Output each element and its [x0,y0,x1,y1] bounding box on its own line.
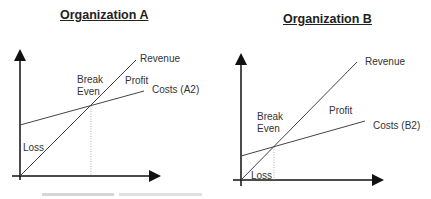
figure-caption-clipped [42,193,202,196]
break-even-diagrams: Revenue Break Even Profit Costs (A2) Los… [0,0,431,199]
costs-label: Costs (A2) [152,84,199,95]
break-even-label-2: Even [77,86,100,97]
profit-label: Profit [329,105,353,116]
break-even-label-1: Break [77,74,104,85]
profit-label: Profit [125,75,149,86]
costs-label: Costs (B2) [373,120,420,131]
revenue-label: Revenue [140,53,180,64]
revenue-label: Revenue [365,56,405,67]
break-even-label-2: Even [257,123,280,134]
loss-label: Loss [23,142,44,153]
panel-b-chart: Revenue Break Even Profit Costs (B2) Los… [233,56,420,186]
loss-label: Loss [251,170,272,181]
break-even-label-1: Break [257,111,284,122]
panel-a-chart: Revenue Break Even Profit Costs (A2) Los… [12,52,199,180]
